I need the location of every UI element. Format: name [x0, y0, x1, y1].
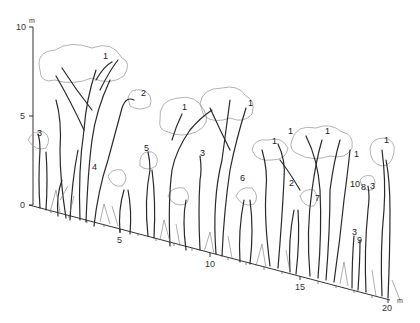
x-axis-label-15: 15 [295, 283, 305, 292]
species-label: 2 [141, 89, 146, 98]
x-axis-label-5: 5 [117, 236, 122, 245]
species-label: 3 [37, 129, 42, 138]
species-label: 5 [144, 144, 149, 153]
species-label: 1 [272, 137, 277, 146]
tree-crowns [28, 44, 394, 206]
understory-vegetation [50, 186, 400, 300]
horizontal-axis [29, 205, 390, 303]
species-label: 1 [103, 52, 108, 61]
species-label: 3 [200, 149, 205, 158]
diagram-drawing [0, 0, 420, 323]
x-axis-label-20: 20 [382, 304, 392, 313]
species-label: 1 [325, 127, 330, 136]
y-axis-label-5: 5 [20, 112, 25, 121]
species-label: 8 [361, 183, 366, 192]
species-label: 2 [289, 179, 294, 188]
species-label: 1 [354, 150, 359, 159]
species-label: 9 [357, 236, 362, 245]
species-label: 1 [384, 136, 389, 145]
forest-profile-diagram: 10 m 5 0 5 10 15 20 m 1 2 3 4 5 1 1 3 6 … [0, 0, 420, 323]
ground-minor-ticks [51, 211, 372, 298]
species-label: 1 [182, 103, 187, 112]
x-axis-label-10: 10 [205, 260, 215, 269]
species-label: 4 [92, 163, 97, 172]
y-axis-label-10: 10 [16, 23, 26, 32]
species-label: 10 [350, 180, 360, 189]
species-label: 7 [315, 194, 320, 203]
species-label: 1 [248, 99, 253, 108]
x-axis-unit: m [397, 297, 403, 304]
y-axis-label-0: 0 [20, 201, 25, 210]
species-label: 6 [240, 174, 245, 183]
species-label: 3 [370, 182, 375, 191]
vertical-axis [29, 27, 33, 205]
y-axis-unit: m [29, 17, 35, 24]
species-label: 1 [288, 127, 293, 136]
